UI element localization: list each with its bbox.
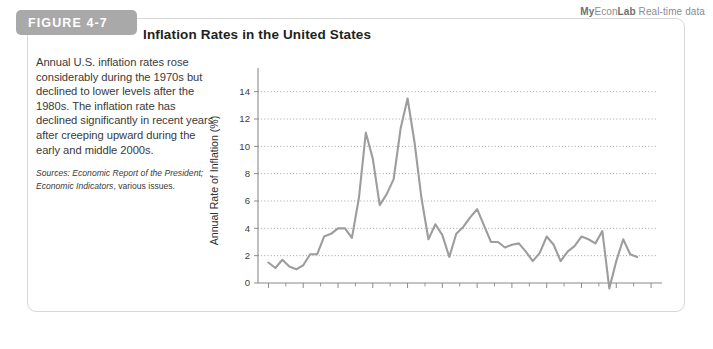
y-tick-label: 6 [245,195,250,206]
y-tick-label: 14 [239,86,250,97]
y-axis-title: Annual Rate of Inflation (%) [208,116,220,246]
x-tick-label: 1960 [258,290,279,292]
sources-tail: , various issues. [113,181,175,191]
myeconlab-lab: Lab [618,6,636,17]
x-tick-label: 2015 [640,290,661,292]
x-tick-label: 2005 [571,290,592,292]
y-tick-label: 12 [239,113,250,124]
figure-number-tab: FIGURE 4-7 [16,10,137,35]
sources-work-two: Economic Indicators [36,181,113,191]
caption-text: Annual U.S. inflation rates rose conside… [36,55,216,157]
x-tick-label: 1985 [432,290,453,292]
y-tick-label: 10 [239,141,250,152]
figure-title: Inflation Rates in the United States [143,27,371,42]
x-tick-label: 1965 [293,290,314,292]
x-tick-label: 1990 [466,290,487,292]
myeconlab-my: My [580,6,594,17]
y-tick-label: 8 [245,168,250,179]
chart-x-ticks: 1960196519701975198019851990199520002005… [258,283,662,292]
chart-svg: 02468101214 1960196519701975198019851990… [196,52,666,292]
myeconlab-econ: Econ [594,6,617,17]
inflation-line-chart: 02468101214 1960196519701975198019851990… [196,52,666,292]
x-tick-label: 1975 [362,290,383,292]
inflation-data-line [268,99,637,289]
x-tick-label: 1980 [397,290,418,292]
sources-label: Sources: [36,168,70,178]
sources-work-one: Economic Report of the President; [70,168,203,178]
x-tick-label: 1970 [327,290,348,292]
y-tick-label: 0 [245,277,250,288]
x-tick-label: 2010 [606,290,627,292]
y-tick-label: 4 [245,223,251,234]
myeconlab-banner: MyEconLab Real-time data [580,6,705,17]
myeconlab-realtime-data: Real-time data [636,6,705,17]
figure-number-label: FIGURE 4-7 [28,16,108,30]
x-tick-label: 1995 [501,290,522,292]
chart-y-ticks: 02468101214 [239,86,258,288]
caption-sources: Sources: Economic Report of the Presiden… [36,167,216,192]
x-tick-label: 2000 [536,290,557,292]
caption-column: Annual U.S. inflation rates rose conside… [36,55,216,192]
y-tick-label: 2 [245,250,250,261]
